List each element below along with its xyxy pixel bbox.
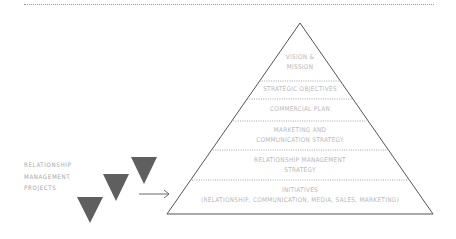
level-relationship-management-strategy: RELATIONSHIP MANAGEMENT STRATEGY (254, 156, 346, 175)
level-marketing-communication: MARKETING AND COMMUNICATION STRATEGY (256, 126, 344, 145)
relationship-management-projects-label: RELATIONSHIP MANAGEMENT PROJECTS (24, 159, 71, 194)
level-commercial-plan: COMMERCIAL PLAN (270, 105, 330, 115)
project-triangle-1 (131, 157, 157, 184)
level-strategic-objectives: STRATEGIC OBJECTIVES (263, 85, 337, 95)
project-triangle-3 (77, 197, 103, 223)
level-initiatives: INITIATIVES (RELATIONSHIP, COMMUNICATION… (201, 186, 399, 205)
arrow-right-icon (139, 190, 169, 198)
level-vision-mission: VISION & MISSION (286, 53, 315, 72)
project-triangle-2 (103, 174, 129, 201)
